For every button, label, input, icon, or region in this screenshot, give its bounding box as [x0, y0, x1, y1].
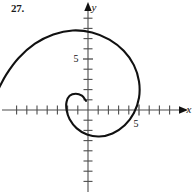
coordinate-plot: 5 x — [0, 0, 192, 194]
figure-container: 27. — [0, 0, 192, 194]
spiral-curve — [0, 30, 140, 136]
x-axis-tick-label-5: 5 — [134, 118, 139, 129]
x-axis-label: x — [186, 103, 192, 115]
y-axis-label: y — [91, 1, 97, 13]
y-axis-tick-label-5: 5 — [74, 53, 79, 64]
x-axis: 5 x — [2, 103, 192, 129]
